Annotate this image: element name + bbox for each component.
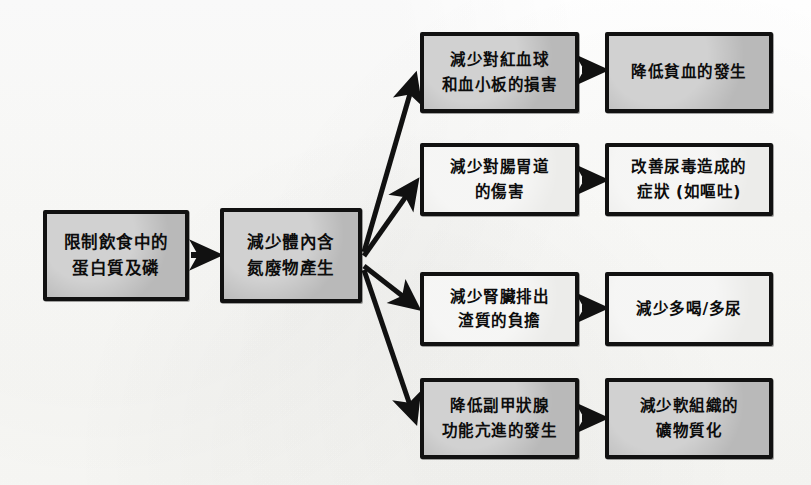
node-branch-gastrointestinal-line2: 的傷害 <box>475 180 525 204</box>
node-branch-blood-cells-line1: 減少對紅血球 <box>450 48 549 72</box>
node-outcome-anemia-line1: 降低貧血的發生 <box>631 63 747 82</box>
node-branch-kidney-burden-line1: 減少腎臟排出 <box>450 285 549 309</box>
connector-second-to-branch1 <box>364 80 414 252</box>
node-reduce-nitrogen-waste-line2: 氮廢物產生 <box>247 256 335 282</box>
node-outcome-polydipsia-polyuria: 減少多喝/多尿 <box>605 272 773 346</box>
node-branch-gastrointestinal: 減少對腸胃道 的傷害 <box>420 143 579 216</box>
node-branch-hyperparathyroidism-line1: 降低副甲狀腺 <box>450 394 549 418</box>
node-branch-kidney-burden-line2: 渣質的負擔 <box>458 309 541 333</box>
node-outcome-soft-tissue-mineralization-line1: 減少軟組織的 <box>640 394 739 418</box>
node-branch-hyperparathyroidism: 降低副甲狀腺 功能亢進的發生 <box>420 378 579 459</box>
node-outcome-anemia: 降低貧血的發生 <box>605 32 773 113</box>
node-branch-gastrointestinal-line1: 減少對腸胃道 <box>450 155 549 179</box>
node-branch-blood-cells: 減少對紅血球 和血小板的損害 <box>420 32 579 113</box>
node-outcome-soft-tissue-mineralization-line2: 礦物質化 <box>656 419 722 443</box>
node-branch-kidney-burden: 減少腎臟排出 渣質的負擔 <box>420 272 579 346</box>
node-branch-blood-cells-line2: 和血小板的損害 <box>442 73 558 97</box>
node-outcome-polydipsia-polyuria-line1: 減少多喝/多尿 <box>636 300 741 319</box>
connector-second-to-branch4 <box>364 270 414 417</box>
node-reduce-nitrogen-waste: 減少體內含 氮廢物產生 <box>220 208 362 303</box>
node-outcome-uremia-symptoms-line1: 改善尿毒造成的 <box>631 155 747 179</box>
node-outcome-soft-tissue-mineralization: 減少軟組織的 礦物質化 <box>605 378 773 459</box>
node-dietary-restriction: 限制飲食中的 蛋白質及磷 <box>43 210 189 301</box>
node-outcome-uremia-symptoms-line2: 症狀 (如嘔吐) <box>637 180 741 204</box>
flowchart-canvas: 限制飲食中的 蛋白質及磷 減少體內含 氮廢物產生 減少對紅血球 和血小板的損害 … <box>0 0 811 485</box>
node-branch-hyperparathyroidism-line2: 功能亢進的發生 <box>442 419 558 443</box>
node-dietary-restriction-line2: 蛋白質及磷 <box>72 256 160 282</box>
node-dietary-restriction-line1: 限制飲食中的 <box>64 230 169 256</box>
node-outcome-uremia-symptoms: 改善尿毒造成的 症狀 (如嘔吐) <box>605 143 773 216</box>
node-reduce-nitrogen-waste-line1: 減少體內含 <box>247 230 335 256</box>
